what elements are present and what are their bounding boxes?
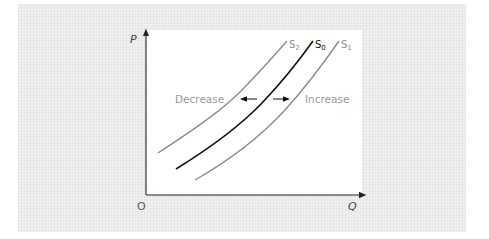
label-s2: S2	[289, 39, 300, 52]
supply-curve-s1	[195, 41, 339, 180]
x-axis-label: Q	[348, 200, 357, 213]
supply-shift-diagram: P Q O S2 S0 S1 Decrease Increase	[0, 0, 489, 239]
y-axis-label: P	[130, 33, 137, 46]
label-s0: S0	[315, 39, 326, 52]
origin-label: O	[137, 200, 146, 213]
increase-label: Increase	[305, 93, 349, 105]
decrease-label: Decrease	[175, 93, 224, 105]
supply-curve-s0	[176, 41, 313, 169]
label-s1: S1	[341, 39, 352, 52]
